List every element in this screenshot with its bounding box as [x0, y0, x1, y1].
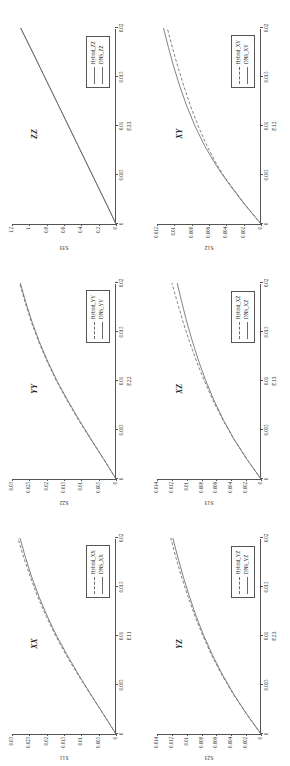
legend-line-swatch [102, 67, 103, 84]
y-tick-label: 0.8 [44, 227, 49, 233]
plot-cell-yz: 00.0020.0040.0060.0080.010.0120.01400.00… [145, 510, 290, 765]
plot-cell-xy: 00.0020.0040.0060.0080.010.01200.0050.01… [145, 0, 290, 255]
y-tick-label: 0.006 [214, 482, 219, 493]
x-tick-label: 0.005 [119, 680, 124, 691]
legend-label: DNS_ZZ [99, 45, 104, 64]
plot-title-xy: XY [175, 128, 184, 138]
y-tick-label: 1 [27, 227, 32, 229]
y-tick-label: 0.002 [244, 737, 249, 748]
legend-label: DNS_XX [99, 554, 104, 574]
y-axis-label: S12 [204, 245, 213, 251]
y-tick-label: 0.4 [79, 227, 84, 233]
y-tick-label: 0.014 [154, 737, 159, 748]
y-tick-label: 0 [258, 737, 263, 739]
legend-line-swatch [94, 322, 95, 339]
x-tick-label: 0.01 [264, 122, 269, 131]
legend-label: DNS_XZ [244, 300, 249, 319]
legend-label: Hybrid_XZ [236, 296, 241, 319]
y-axis-label: S22 [59, 500, 68, 506]
x-axis-label: E12 [271, 28, 277, 224]
legend-entry: DNS_YZ [243, 551, 251, 594]
y-tick-label: 0 [113, 482, 118, 484]
plot-title-xz: XZ [175, 383, 184, 393]
y-tick-label: 0.01 [184, 737, 189, 746]
y-tick-label: 0.012 [169, 737, 174, 748]
x-tick-label: 0.02 [119, 24, 124, 33]
x-tick-label: 0.015 [119, 327, 124, 338]
y-tick-label: 0.002 [241, 227, 246, 238]
y-tick-label: 0.2 [96, 227, 101, 233]
plot-title-xx: XX [30, 638, 39, 649]
axes-xx: 00.0050.010.0150.020.0250.0300.0050.010.… [12, 539, 116, 735]
y-tick-label: 0.03 [9, 737, 14, 746]
legend: Hybrid_YZDNS_YZ [231, 546, 255, 598]
plot-yy: 00.0050.010.0150.020.0250.0300.0050.010.… [0, 255, 145, 510]
y-tick-label: 0.03 [9, 482, 14, 491]
x-tick-label: 0.015 [119, 582, 124, 593]
legend-entry: Hybrid_ZZ [90, 41, 98, 84]
y-tick-label: 0.02 [44, 482, 49, 491]
x-tick-label: 0.005 [119, 425, 124, 436]
x-tick-label: 0.01 [264, 377, 269, 386]
x-axis-label: E22 [126, 283, 132, 479]
x-tick-label: 0.02 [264, 279, 269, 288]
y-tick-label: 0.004 [229, 482, 234, 493]
legend-label: Hybrid_YY [91, 295, 96, 319]
y-tick-label: 0 [113, 227, 118, 229]
x-tick-label: 0 [119, 733, 124, 735]
legend-line-swatch [247, 322, 248, 339]
y-tick-label: 0.025 [27, 737, 32, 748]
plot-cell-yy: 00.0050.010.0150.020.0250.0300.0050.010.… [0, 255, 145, 510]
x-tick-label: 0 [264, 733, 269, 735]
x-axis-label: E13 [271, 283, 277, 479]
y-tick-label: 0 [113, 737, 118, 739]
y-tick-label: 0 [258, 227, 263, 229]
x-axis-label: E11 [126, 538, 132, 734]
plot-xz: 00.0020.0040.0060.0080.010.0120.01400.00… [145, 255, 290, 510]
y-axis-label: S33 [59, 245, 68, 251]
y-tick-label: 0.006 [206, 227, 211, 238]
y-tick-label: 0.006 [214, 737, 219, 748]
legend-line-swatch [102, 322, 103, 339]
y-tick-label: 0.008 [189, 227, 194, 238]
y-tick-label: 0.01 [172, 227, 177, 236]
x-tick-label: 0.01 [119, 377, 124, 386]
plot-title-yz: YZ [175, 639, 184, 649]
axes-yz: 00.0020.0040.0060.0080.010.0120.01400.00… [157, 539, 261, 735]
x-axis-label: E23 [271, 538, 277, 734]
y-tick-label: 0.002 [244, 482, 249, 493]
y-tick-label: 0.015 [61, 737, 66, 748]
x-tick-label: 0.01 [119, 632, 124, 641]
x-tick-label: 0.015 [264, 327, 269, 338]
axes-yy: 00.0050.010.0150.020.0250.0300.0050.010.… [12, 284, 116, 480]
y-tick-label: 0.02 [44, 737, 49, 746]
y-axis-label: S13 [204, 500, 213, 506]
legend-label: Hybrid_XY [236, 40, 241, 64]
legend-entry: Hybrid_XZ [235, 296, 243, 339]
y-tick-label: 0.004 [229, 737, 234, 748]
legend-line-swatch [239, 322, 240, 339]
legend-entry: Hybrid_YZ [235, 551, 243, 594]
y-tick-label: 0.025 [27, 482, 32, 493]
legend-entry: DNS_XZ [243, 296, 251, 339]
y-axis-label: S11 [59, 755, 68, 761]
x-tick-label: 0.01 [264, 632, 269, 641]
x-tick-label: 0.02 [264, 534, 269, 543]
legend-label: DNS_XY [244, 44, 249, 64]
legend-label: Hybrid_YZ [236, 551, 241, 574]
y-tick-label: 0.008 [199, 482, 204, 493]
legend-line-swatch [247, 67, 248, 84]
x-tick-label: 0.005 [264, 425, 269, 436]
legend-entry: DNS_XX [98, 550, 106, 594]
legend-label: DNS_YY [99, 299, 104, 319]
y-tick-label: 0.01 [184, 482, 189, 491]
plot-yz: 00.0020.0040.0060.0080.010.0120.01400.00… [145, 510, 290, 765]
x-tick-label: 0.005 [264, 680, 269, 691]
legend-entry: Hybrid_YY [90, 295, 98, 339]
y-tick-label: 0.012 [154, 227, 159, 238]
legend-entry: Hybrid_XY [235, 40, 243, 84]
y-tick-label: 0.6 [61, 227, 66, 233]
x-tick-label: 0.015 [264, 582, 269, 593]
x-tick-label: 0 [264, 478, 269, 480]
plot-cell-xx: 00.0050.010.0150.020.0250.0300.0050.010.… [0, 510, 145, 765]
